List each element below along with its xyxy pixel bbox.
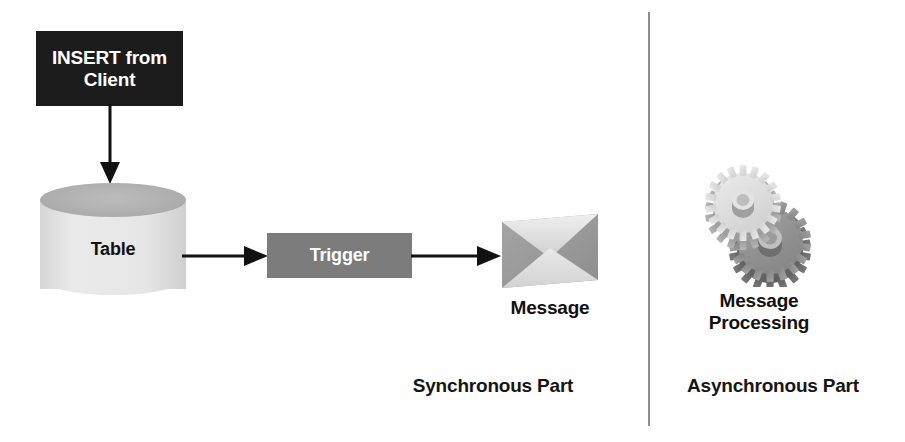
- node-message-processing-label: Message Processing: [676, 290, 842, 333]
- node-trigger: Trigger: [267, 233, 412, 278]
- node-trigger-label: Trigger: [310, 245, 370, 266]
- section-divider: [648, 12, 650, 426]
- cylinder-bottom-ellipse: [40, 259, 186, 295]
- edge-insert-to-table: [92, 104, 132, 186]
- gears-icon: [694, 155, 818, 287]
- edge-trigger-to-message: [411, 242, 503, 270]
- envelope-icon: [500, 214, 600, 290]
- node-table-label: Table: [40, 239, 186, 260]
- node-insert-from-client: INSERT from Client: [36, 31, 183, 106]
- caption-asynchronous-part: Asynchronous Part: [668, 375, 878, 397]
- node-insert-from-client-label: INSERT from Client: [52, 47, 167, 90]
- diagram-canvas: INSERT from Client Table Trigger: [0, 0, 905, 442]
- node-table: Table: [40, 183, 186, 303]
- cylinder-top-ellipse: [40, 183, 186, 217]
- caption-synchronous-part: Synchronous Part: [388, 375, 598, 397]
- node-message-label: Message: [470, 297, 630, 319]
- edge-table-to-trigger: [182, 242, 270, 270]
